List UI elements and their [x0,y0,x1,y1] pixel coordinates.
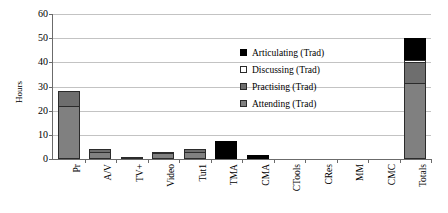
legend-item[interactable]: Practising (Trad) [240,78,370,95]
x-tick-label-tut1: Tut1 [198,164,208,182]
bar-chart: Hours 0102030405060 PrA/VTV+VideoTut1TMA… [0,0,448,213]
y-axis-title: Hours [14,62,24,122]
y-tick-label-40: 40 [26,57,48,67]
legend-item[interactable]: Attending (Trad) [240,95,370,112]
y-tick-label-20: 20 [26,106,48,116]
x-tick-label-tv-: TV+ [135,164,145,182]
legend-swatch-icon [240,100,247,107]
y-axis-tick-labels: 0102030405060 [26,0,48,213]
x-tick-label-cmc: CMC [387,164,397,185]
x-tick-label-totals: Totals [418,164,428,187]
legend-label: Practising (Trad) [252,82,316,92]
x-tick-label-cma: CMA [261,164,271,186]
x-tick-label-video: Video [166,164,176,187]
y-tick-label-60: 60 [26,9,48,19]
x-tick-label-mm: MM [355,164,365,181]
legend-label: Articulating (Trad) [252,48,324,58]
x-tick-label-tma: TMA [229,164,239,185]
y-tick-label-50: 50 [26,33,48,43]
legend-item[interactable]: Articulating (Trad) [240,44,370,61]
x-tick-mark [431,159,432,163]
chart-legend: Articulating (Trad)Discussing (Trad)Prac… [240,44,370,112]
x-tick-label-cres: CRes [324,164,334,185]
y-tick-label-30: 30 [26,82,48,92]
x-tick-label-pr: Pr [72,164,82,172]
y-tick-label-10: 10 [26,130,48,140]
legend-swatch-icon [240,83,247,90]
legend-label: Discussing (Trad) [252,65,320,75]
x-tick-label-a-v: A/V [103,164,113,180]
legend-item[interactable]: Discussing (Trad) [240,61,370,78]
y-tick-label-0: 0 [26,154,48,164]
x-tick-label-ctools: CTools [292,164,302,191]
legend-swatch-icon [240,66,247,73]
legend-label: Attending (Trad) [252,99,316,109]
legend-swatch-icon [240,49,247,56]
